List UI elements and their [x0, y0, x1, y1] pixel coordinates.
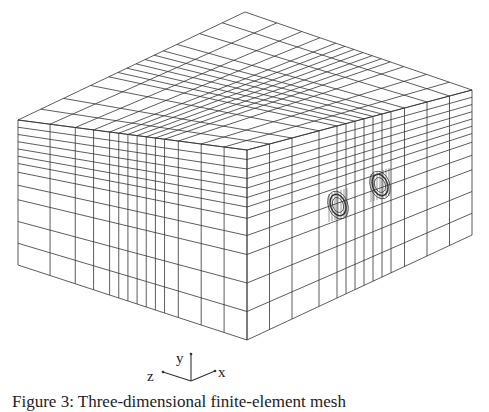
mesh-line [247, 170, 472, 255]
mesh-line [18, 222, 247, 284]
arrow-head-icon [162, 371, 165, 374]
mesh-line [165, 62, 391, 139]
mesh-line [18, 156, 247, 197]
mesh-line [18, 265, 247, 340]
arrow-head-icon [214, 370, 217, 373]
mesh-line [247, 155, 472, 235]
arrow-head-icon [190, 353, 193, 356]
mesh-line [222, 23, 449, 96]
mesh-line [245, 12, 472, 90]
mesh-line [18, 243, 247, 311]
mesh-line [18, 164, 247, 208]
axis-label-x: x [218, 364, 226, 381]
axis-arrow-x [191, 371, 215, 381]
mesh-line [75, 32, 302, 128]
mesh-line [18, 135, 247, 170]
mesh-line [247, 134, 472, 208]
axis-label-y: y [176, 350, 184, 367]
mesh-line [247, 112, 472, 179]
mesh-line [18, 185, 247, 235]
axis-label-z: z [147, 368, 154, 385]
mesh-line [201, 74, 426, 144]
mesh-line [247, 97, 472, 159]
mesh-line [247, 213, 472, 311]
mesh-line [18, 172, 247, 218]
figure-caption: Figure 3: Three-dimensional finite-eleme… [12, 392, 346, 412]
mesh-line [50, 23, 277, 124]
mesh-line [200, 34, 427, 102]
axis-arrow-z [163, 372, 191, 381]
mesh-line [18, 200, 247, 255]
mesh-line [247, 192, 472, 284]
mesh-line [178, 67, 404, 141]
mesh-line [247, 235, 472, 340]
mesh-line [18, 142, 247, 179]
